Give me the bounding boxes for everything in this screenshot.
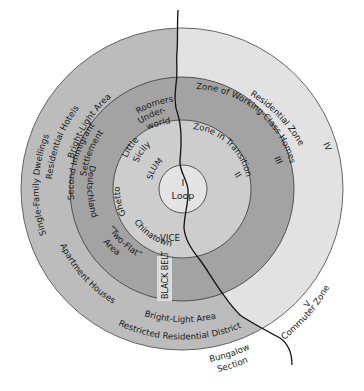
loop-label: Loop	[172, 190, 195, 201]
label-black-belt: BLACK BELT	[161, 251, 170, 299]
label-vice: VICE	[160, 233, 180, 243]
loop-circle	[159, 165, 207, 213]
loop-numeral: I	[182, 177, 185, 188]
concentric-zone-diagram: I Loop Single-Family Dwellings Residenti…	[0, 0, 364, 391]
